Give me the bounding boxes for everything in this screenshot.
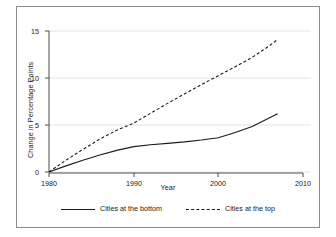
legend-entry-cities-at-the-top: Cities at the top (186, 204, 275, 213)
chart-figure: 15 10 5 0 1980 1990 2000 2010 Change in … (0, 0, 336, 237)
legend-entry-cities-at-the-bottom: Cities at the bottom (61, 204, 162, 213)
legend-key-solid-line-icon (61, 205, 95, 213)
series-line-cities-at-the-top (49, 39, 278, 172)
line-chart-plot (17, 7, 321, 229)
y-axis-title: Change in Percentage Points (26, 62, 35, 158)
y-axis (45, 31, 49, 172)
y-tick-label-15: 15 (15, 27, 39, 36)
figure-frame: 15 10 5 0 1980 1990 2000 2010 (16, 6, 320, 228)
legend-label-cities-at-the-top: Cities at the top (225, 204, 275, 213)
x-axis (49, 173, 303, 177)
legend-label-cities-at-the-bottom: Cities at the bottom (100, 204, 162, 213)
y-tick-label-0: 0 (15, 168, 39, 177)
chart-legend: Cities at the bottom Cities at the top (16, 204, 320, 213)
x-axis-title: Year (0, 183, 336, 192)
series-line-cities-at-the-bottom (49, 114, 278, 172)
legend-key-dashed-line-icon (186, 205, 220, 213)
grid-lines (49, 31, 311, 172)
